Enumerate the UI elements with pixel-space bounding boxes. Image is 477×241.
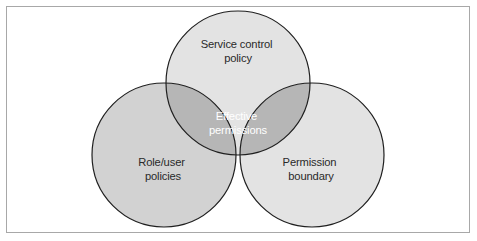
label-role-user-policies-line1: Role/user [138, 156, 185, 168]
venn-diagram-canvas: Service control policy Role/user policie… [0, 0, 477, 241]
label-permission-boundary-line2: boundary [288, 170, 334, 182]
label-role-user-policies: Role/user policies [138, 156, 188, 182]
label-permission-boundary: Permission boundary [283, 156, 340, 182]
label-permission-boundary-line1: Permission [283, 156, 337, 168]
label-effective-permissions: Effective permissions [209, 110, 268, 136]
label-role-user-policies-line2: policies [145, 170, 182, 182]
label-effective-permissions-line1: Effective [216, 110, 257, 122]
label-service-control-policy-line2: policy [224, 52, 252, 64]
label-service-control-policy-line1: Service control [201, 38, 273, 50]
venn-diagram-figure: Service control policy Role/user policie… [0, 0, 477, 241]
label-effective-permissions-line2: permissions [209, 124, 268, 136]
